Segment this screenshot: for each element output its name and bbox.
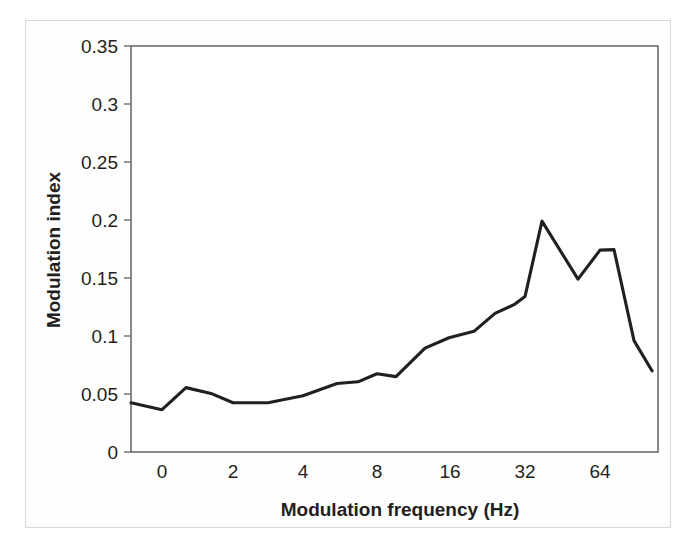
x-tick-label-2: 2	[228, 461, 239, 482]
y-tick-label-5: 0.25	[81, 152, 118, 173]
x-tick-label-32: 32	[514, 461, 535, 482]
y-tick-label-1: 0.05	[81, 384, 118, 405]
y-tick-label-4: 0.2	[92, 210, 118, 231]
y-tick-label-0: 0	[107, 442, 118, 463]
y-axis-ticks	[124, 46, 131, 452]
y-axis-tick-labels: 0.35 0.3 0.25 0.2 0.15 0.1 0.05 0	[81, 36, 118, 463]
x-axis-title: Modulation frequency (Hz)	[281, 499, 520, 520]
y-tick-label-2: 0.1	[92, 326, 118, 347]
x-tick-label-4: 4	[298, 461, 309, 482]
x-tick-label-16: 16	[439, 461, 460, 482]
y-tick-label-3: 0.15	[81, 268, 118, 289]
modulation-index-line-chart: 0.35 0.3 0.25 0.2 0.15 0.1 0.05 0 0 2 4 …	[0, 0, 694, 547]
y-axis-title: Modulation index	[43, 171, 64, 328]
chart-figure: 0.35 0.3 0.25 0.2 0.15 0.1 0.05 0 0 2 4 …	[0, 0, 694, 547]
figure-page: 0.35 0.3 0.25 0.2 0.15 0.1 0.05 0 0 2 4 …	[0, 0, 694, 547]
y-tick-label-6: 0.3	[92, 94, 118, 115]
x-tick-label-64: 64	[589, 461, 611, 482]
y-tick-label-7: 0.35	[81, 36, 118, 57]
x-axis-tick-labels: 0 2 4 8 16 32 64	[157, 461, 611, 482]
x-tick-label-0: 0	[157, 461, 168, 482]
plot-frame	[131, 46, 658, 452]
x-tick-label-8: 8	[372, 461, 383, 482]
